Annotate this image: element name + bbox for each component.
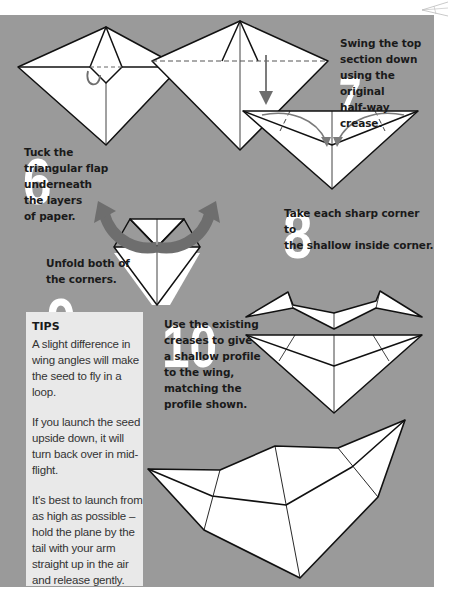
text-line: creases to give <box>164 332 260 348</box>
step-10-top-view <box>246 335 422 413</box>
text-line: the layers <box>24 192 108 208</box>
tip-paragraph: It's best to launch from as high as poss… <box>32 492 143 587</box>
instruction-page: 7 6 8 9 10 <box>0 0 449 596</box>
step-6-instruction: Tuck the triangular flap underneath the … <box>24 144 108 224</box>
text-line: section down <box>340 51 434 67</box>
step-6-diagram <box>18 27 180 145</box>
step-9-diagram <box>94 201 220 305</box>
text-line: the shallow inside corner. <box>284 237 434 253</box>
text-line: to the wing, <box>164 364 260 380</box>
text-line: Unfold both of <box>46 255 130 271</box>
step-7-instruction: Swing the top section down using the ori… <box>340 35 434 131</box>
text-line: Swing the top <box>340 35 434 51</box>
step-10-profile <box>246 291 422 329</box>
text-line: a shallow profile <box>164 348 260 364</box>
text-line: Use the existing <box>164 316 260 332</box>
tip-paragraph: If you launch the seed upside down, it w… <box>32 414 143 478</box>
text-line: profile shown. <box>164 396 260 412</box>
step-10-instruction: Use the existing creases to give a shall… <box>164 316 260 412</box>
text-line: Tuck the <box>24 144 108 160</box>
text-line: using the original <box>340 67 434 99</box>
text-line: half-way crease. <box>340 99 434 131</box>
text-line: the corners. <box>46 271 130 287</box>
text-line: Take each sharp corner to <box>284 205 434 237</box>
tips-box: TIPS A slight difference in wing angles … <box>26 312 143 586</box>
text-line: of paper. <box>24 208 108 224</box>
text-line: underneath <box>24 176 108 192</box>
instructions-panel: 7 6 8 9 10 <box>0 15 434 587</box>
tip-paragraph: A slight difference in wing angles will … <box>32 336 143 400</box>
step-8-instruction: Take each sharp corner to the shallow in… <box>284 205 434 253</box>
step-9-instruction: Unfold both of the corners. <box>46 255 130 287</box>
tips-title: TIPS <box>32 320 143 334</box>
text-line: matching the <box>164 380 260 396</box>
text-line: triangular flap <box>24 160 108 176</box>
final-wing-3d <box>148 420 405 578</box>
